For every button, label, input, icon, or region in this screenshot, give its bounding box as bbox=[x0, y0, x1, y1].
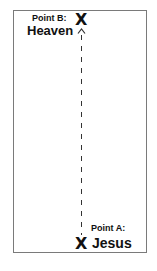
dashed-path-line bbox=[81, 35, 82, 235]
point-a-x-marker-icon: X bbox=[75, 236, 87, 252]
point-b-label: Point B: bbox=[32, 14, 67, 23]
point-a-label: Point A: bbox=[91, 224, 125, 233]
point-b-x-marker-icon: X bbox=[75, 12, 87, 28]
point-b-name: Heaven bbox=[27, 24, 73, 37]
diagram-frame bbox=[13, 10, 147, 253]
point-a-name: Jesus bbox=[92, 236, 132, 250]
